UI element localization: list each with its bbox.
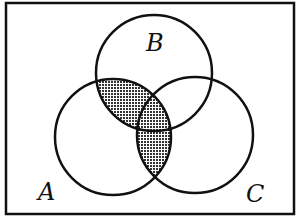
set-c-label: C: [246, 180, 264, 208]
set-a-label: A: [36, 178, 55, 206]
venn-diagram: A B C: [0, 0, 298, 220]
set-b-label: B: [145, 29, 164, 57]
